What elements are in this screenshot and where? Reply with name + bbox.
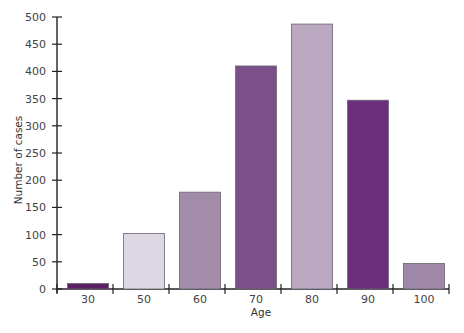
bar-age-60 (180, 192, 221, 289)
y-tick-label: 0 (39, 283, 46, 296)
y-tick-label: 300 (25, 120, 46, 133)
y-axis-title: Number of cases (12, 116, 24, 205)
bars (68, 24, 445, 289)
x-axis-title: Age (251, 306, 271, 318)
bar-age-90 (348, 100, 389, 289)
y-tick-label: 150 (25, 201, 46, 214)
bar-age-50 (124, 234, 165, 289)
y-axis: 050100150200250300350400450500 (25, 11, 62, 296)
y-tick-label: 250 (25, 147, 46, 160)
y-tick-label: 350 (25, 93, 46, 106)
x-tick-label: 60 (193, 293, 207, 306)
y-tick-label: 50 (32, 256, 46, 269)
bar-age-70 (236, 66, 277, 289)
y-tick-label: 450 (25, 38, 46, 51)
x-tick-label: 30 (81, 293, 95, 306)
y-tick-label: 200 (25, 174, 46, 187)
x-tick-label: 90 (361, 293, 375, 306)
x-tick-label: 70 (249, 293, 263, 306)
y-tick-label: 400 (25, 65, 46, 78)
bar-age-30 (68, 284, 109, 289)
x-tick-label: 80 (305, 293, 319, 306)
y-tick-label: 100 (25, 229, 46, 242)
x-tick-label: 50 (137, 293, 151, 306)
bar-age-80 (292, 24, 333, 289)
y-tick-label: 500 (25, 11, 46, 24)
bar-age-100 (404, 263, 445, 289)
x-tick-label: 100 (414, 293, 435, 306)
bar-chart: 050100150200250300350400450500 305060708… (0, 0, 464, 333)
